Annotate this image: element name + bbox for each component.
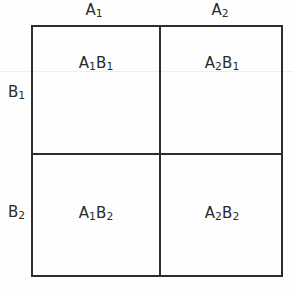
column-header-a2: A2 <box>157 1 283 19</box>
row-header-b1-base: B <box>8 83 18 101</box>
cell-a1b1: A1B1 <box>33 27 159 153</box>
cell-a1b1-b-subscript: 1 <box>106 60 113 73</box>
cell-a1b1-b-base: B <box>96 54 107 72</box>
grid-box: A1B1 A2B1 A1B2 A2B2 <box>31 25 283 277</box>
cell-a2b1-a-subscript: 2 <box>215 60 222 73</box>
column-header-a2-subscript: 2 <box>222 7 229 20</box>
column-header-a1: A1 <box>31 1 157 19</box>
cell-a1b2-label: A1B2 <box>79 204 114 222</box>
cell-a2b1: A2B1 <box>159 27 285 153</box>
row-header-b1: B1 <box>4 83 29 101</box>
cell-a1b1-a-base: A <box>79 54 89 72</box>
cell-a2b2: A2B2 <box>159 153 285 279</box>
cell-a2b2-a-subscript: 2 <box>215 210 222 223</box>
cell-a2b2-b-base: B <box>222 204 233 222</box>
cell-a2b1-b-base: B <box>222 54 233 72</box>
cell-a2b1-b-subscript: 1 <box>232 60 239 73</box>
row-header-b2-subscript: 2 <box>18 209 25 222</box>
column-header-a1-subscript: 1 <box>96 7 103 20</box>
cell-a2b2-label: A2B2 <box>205 204 240 222</box>
cell-a2b2-b-subscript: 2 <box>232 210 239 223</box>
cell-a2b1-a-base: A <box>205 54 215 72</box>
cell-a1b2: A1B2 <box>33 153 159 279</box>
cell-a2b1-label: A2B1 <box>205 54 240 72</box>
row-header-b2-base: B <box>8 203 18 221</box>
cell-a1b2-b-base: B <box>96 204 107 222</box>
cell-a1b1-label: A1B1 <box>79 54 114 72</box>
column-header-a2-base: A <box>211 1 221 19</box>
row-header-b1-subscript: 1 <box>18 89 25 102</box>
column-header-a1-base: A <box>85 1 95 19</box>
cell-a2b2-a-base: A <box>205 204 215 222</box>
cell-a1b2-b-subscript: 2 <box>106 210 113 223</box>
row-header-b2: B2 <box>4 203 29 221</box>
cell-a1b1-a-subscript: 1 <box>89 60 96 73</box>
factorial-design-figure: A1 A2 B1 B2 A1B1 A2B1 A1B2 A2B2 <box>0 0 293 290</box>
cell-a1b2-a-subscript: 1 <box>89 210 96 223</box>
cell-a1b2-a-base: A <box>79 204 89 222</box>
